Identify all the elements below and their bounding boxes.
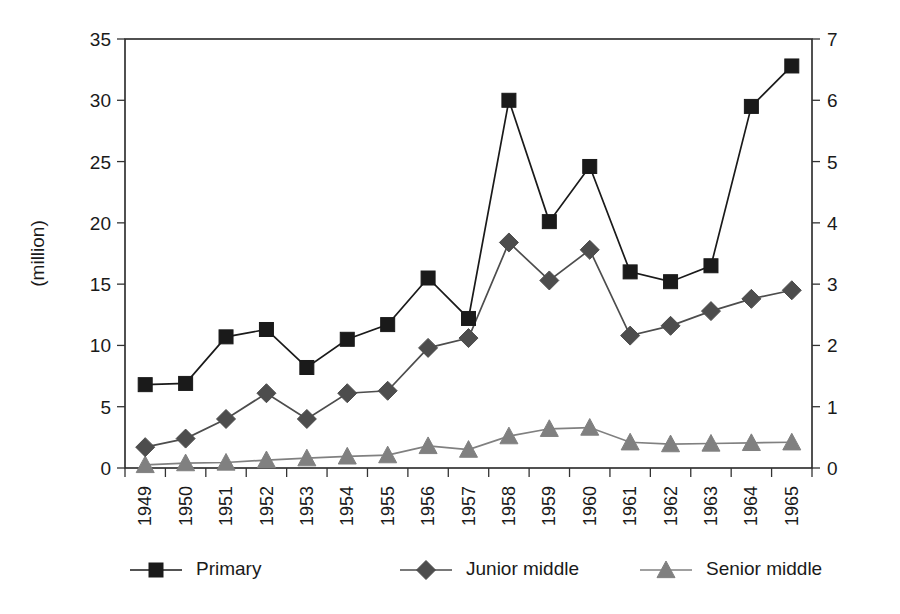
data-point: [179, 376, 193, 390]
data-point: [217, 409, 236, 428]
x-axis-tick-label: 1953: [297, 486, 317, 526]
data-point: [621, 433, 639, 450]
legend-marker-square-icon: [149, 563, 163, 577]
y-axis-left-tick-label: 35: [90, 29, 111, 50]
data-point: [664, 275, 678, 289]
data-point: [704, 259, 718, 273]
legend-label: Senior middle: [706, 558, 822, 579]
y-axis-left-tick-label: 5: [100, 397, 111, 418]
data-point: [459, 329, 478, 348]
data-point: [542, 215, 556, 229]
data-point: [419, 437, 437, 454]
y-axis-right-tick-label: 4: [827, 213, 838, 234]
legend-item-junior-middle[interactable]: Junior middle: [400, 558, 579, 579]
x-axis-tick-label: 1962: [661, 486, 681, 526]
line-chart: 05101520253035 01234567 1949195019511952…: [0, 0, 900, 614]
data-point: [176, 429, 195, 448]
data-point: [661, 316, 680, 335]
y-axis-left-ticks: 05101520253035: [90, 29, 125, 479]
data-point: [257, 384, 276, 403]
y-axis-left-tick-label: 10: [90, 335, 111, 356]
y-axis-right-tick-label: 0: [827, 458, 838, 479]
y-axis-right-ticks: 01234567: [812, 29, 838, 479]
data-point: [621, 326, 640, 345]
y-axis-right-tick-label: 5: [827, 152, 838, 173]
data-point: [785, 59, 799, 73]
y-axis-right-tick-label: 7: [827, 29, 838, 50]
data-point: [580, 240, 599, 259]
data-point: [297, 409, 316, 428]
x-axis-tick-label: 1949: [135, 486, 155, 526]
data-series-group: [136, 59, 802, 473]
data-point: [701, 302, 720, 321]
y-axis-right-tick-label: 3: [827, 274, 838, 295]
chart-legend: PrimaryJunior middleSenior middle: [130, 558, 822, 579]
x-axis-tick-label: 1960: [580, 486, 600, 526]
x-axis-tick-label: 1954: [337, 486, 357, 526]
y-axis-left-tick-label: 20: [90, 213, 111, 234]
x-axis-tick-label: 1956: [418, 486, 438, 526]
data-point: [338, 384, 357, 403]
x-axis-tick-label: 1964: [742, 486, 762, 526]
plot-frame: [125, 39, 812, 468]
legend-marker-diamond-icon: [417, 561, 436, 580]
x-axis-tick-label: 1955: [378, 486, 398, 526]
data-point: [138, 378, 152, 392]
legend-label: Junior middle: [466, 558, 579, 579]
data-point: [742, 289, 761, 308]
x-axis-tick-label: 1965: [782, 486, 802, 526]
x-axis-tick-label: 1961: [620, 486, 640, 526]
y-axis-left-tick-label: 15: [90, 274, 111, 295]
data-point: [623, 265, 637, 279]
x-axis-tick-label: 1952: [257, 486, 277, 526]
y-axis-left-title: (million): [27, 220, 48, 287]
y-axis-left-tick-label: 30: [90, 90, 111, 111]
x-axis-ticks: 1949195019511952195319541955195619571958…: [125, 468, 812, 526]
legend-label: Primary: [196, 558, 262, 579]
data-point: [462, 311, 476, 325]
chart-container: 05101520253035 01234567 1949195019511952…: [0, 0, 900, 614]
data-point: [502, 93, 516, 107]
x-axis-tick-label: 1957: [459, 486, 479, 526]
data-point: [421, 271, 435, 285]
y-axis-left-tick-label: 0: [100, 458, 111, 479]
data-point: [381, 318, 395, 332]
data-point: [340, 332, 354, 346]
data-point: [744, 99, 758, 113]
data-point: [300, 360, 314, 374]
data-point: [219, 330, 233, 344]
data-point: [581, 419, 599, 436]
y-axis-right-tick-label: 1: [827, 397, 838, 418]
x-axis-tick-label: 1958: [499, 486, 519, 526]
data-point: [583, 159, 597, 173]
x-axis-tick-label: 1950: [176, 486, 196, 526]
legend-item-senior-middle[interactable]: Senior middle: [640, 558, 822, 579]
data-point: [782, 281, 801, 300]
axis-titles: (million): [27, 220, 48, 287]
x-axis-tick-label: 1951: [216, 486, 236, 526]
series-senior-middle: [136, 419, 801, 473]
series-junior-middle: [136, 233, 802, 457]
data-point: [259, 322, 273, 336]
data-point: [136, 438, 155, 457]
legend-item-primary[interactable]: Primary: [130, 558, 262, 579]
plot-frame-group: [125, 39, 812, 468]
y-axis-right-tick-label: 6: [827, 90, 838, 111]
y-axis-right-tick-label: 2: [827, 335, 838, 356]
y-axis-left-tick-label: 25: [90, 152, 111, 173]
x-axis-tick-label: 1959: [539, 486, 559, 526]
x-axis-tick-label: 1963: [701, 486, 721, 526]
